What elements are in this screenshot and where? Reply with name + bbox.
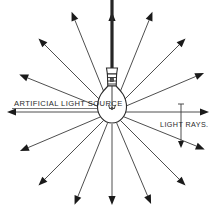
light-ray-arrowhead-right xyxy=(200,108,209,115)
diagram-canvas: ARTIFICIAL LIGHT SOURCE LIGHT RAYS. xyxy=(0,0,214,213)
light-ray-right-up-shallow xyxy=(123,76,196,107)
light-ray-arrowhead-up-right-steep xyxy=(146,12,153,22)
light-ray-arrowhead-left xyxy=(7,108,16,115)
light-ray-up-right xyxy=(120,45,179,104)
light-ray-left-down-shallow xyxy=(28,117,101,148)
light-ray-arrowhead-right-down-shallow xyxy=(195,143,205,150)
light-ray-arrowhead-down-right-steep xyxy=(144,194,151,204)
light-ray-up-left-steep xyxy=(75,20,108,101)
light-ray-down-left xyxy=(45,120,104,179)
label-light-rays: LIGHT RAYS. xyxy=(160,120,208,129)
light-ray-down-right-steep xyxy=(117,123,148,196)
light-ray-arrowhead-right-up-shallow xyxy=(194,73,204,80)
light-ray-down-right xyxy=(120,120,179,179)
bulb-socket xyxy=(107,68,118,86)
light-ray-up-left xyxy=(45,45,104,104)
light-ray-arrowhead-up-left-steep xyxy=(72,12,79,22)
light-ray-arrowhead-left-down-shallow xyxy=(20,144,30,151)
label-artificial-light-source: ARTIFICIAL LIGHT SOURCE xyxy=(14,99,123,108)
light-source-diagram: ARTIFICIAL LIGHT SOURCE LIGHT RAYS. xyxy=(0,0,214,213)
light-ray-down-left-steep xyxy=(78,123,108,196)
light-ray-arrowhead-down xyxy=(108,196,115,205)
light-ray-arrowhead-down-left-steep xyxy=(75,195,82,205)
light-ray-arrowhead-left-up-shallow xyxy=(19,75,29,82)
light-ray-up-right-steep xyxy=(117,20,150,101)
